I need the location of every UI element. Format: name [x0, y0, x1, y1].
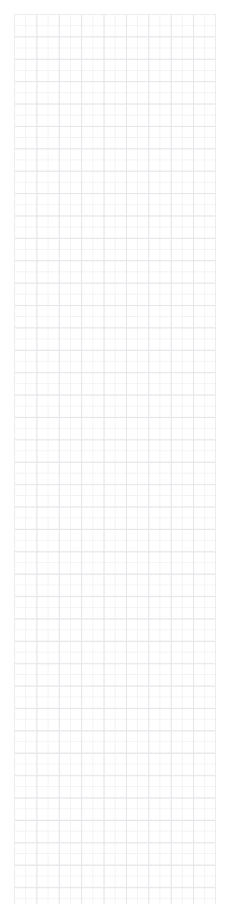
grid-canvas[interactable]	[14, 14, 216, 904]
grid-major-lines	[14, 14, 216, 904]
grid-panel	[0, 0, 227, 904]
